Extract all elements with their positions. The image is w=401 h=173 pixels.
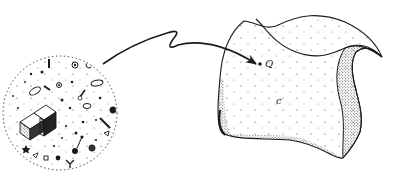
particle-region <box>3 56 117 170</box>
phase-space-diagram <box>0 0 401 173</box>
point-q-label: Q <box>265 59 273 69</box>
shaded-side <box>337 45 382 158</box>
phase-space-region <box>218 16 382 159</box>
region-c-label: c <box>276 96 282 106</box>
point-q <box>258 62 262 66</box>
